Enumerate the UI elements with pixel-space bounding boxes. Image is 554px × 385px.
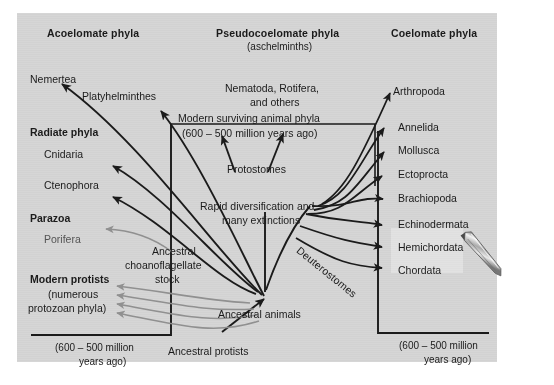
pseudocoelomate-list-line1: Nematoda, Rotifera, (225, 82, 319, 94)
pen-cursor[interactable] (455, 228, 525, 286)
header-acoelomate: Acoelomate phyla (47, 27, 139, 39)
modern-protists-line2: (numerous (48, 288, 98, 300)
header-pseudocoelomate-sub: (aschelminths) (247, 41, 312, 53)
arrow-to-annelida (318, 128, 384, 206)
header-pseudocoelomate: Pseudocoelomate phyla (216, 27, 339, 39)
modern-phyla-box-line1: Modern surviving animal phyla (178, 112, 320, 124)
choanoflagellate-line1: Ancestral (152, 245, 196, 257)
phylum-mollusca: Mollusca (398, 144, 439, 156)
group-modern-protists: Modern protists (30, 273, 109, 285)
phylum-ectoprocta: Ectoprocta (398, 168, 448, 180)
modern-protists-line3: protozoan phyla) (28, 302, 106, 314)
phylum-brachiopoda: Brachiopoda (398, 192, 457, 204)
phylum-ctenophora: Ctenophora (44, 179, 99, 191)
phylum-cnidaria: Cnidaria (44, 148, 83, 160)
event-line2: many extinctions (222, 214, 300, 226)
label-protostomes: Protostomes (227, 163, 286, 175)
event-line1: Rapid diversification and (200, 200, 314, 212)
label-ancestral-protists: Ancestral protists (168, 345, 249, 357)
left-timescale-line1: (600 – 500 million (55, 342, 134, 354)
phylum-annelida: Annelida (398, 121, 439, 133)
arrow-protist-arc-1 (117, 286, 250, 303)
label-ancestral-animals: Ancestral animals (218, 308, 301, 320)
group-parazoa: Parazoa (30, 212, 70, 224)
phylum-porifera: Porifera (44, 233, 81, 245)
choanoflagellate-line3: stock (155, 273, 180, 285)
right-timescale-line1: (600 – 500 million (399, 340, 478, 352)
figure-canvas: Acoelomate phyla Pseudocoelomate phyla (… (0, 0, 554, 385)
diagram-artwork (0, 0, 554, 385)
right-timescale-line2: years ago) (424, 354, 471, 366)
arrow-to-cnidaria (113, 166, 258, 292)
arrow-to-hemichordata (300, 226, 382, 247)
phylum-platyhelminthes: Platyhelminthes (82, 90, 156, 102)
left-timescale-line2: years ago) (79, 356, 126, 368)
arrow-to-echinodermata (306, 214, 382, 225)
header-coelomate: Coelomate phyla (391, 27, 477, 39)
pseudocoelomate-list-line2: and others (250, 96, 300, 108)
phylum-arthropoda: Arthropoda (393, 85, 445, 97)
phylum-nemertea: Nemertea (30, 73, 76, 85)
group-radiate-phyla: Radiate phyla (30, 126, 98, 138)
phylum-hemichordata: Hemichordata (398, 241, 463, 253)
modern-phyla-box-line2: (600 – 500 million years ago) (182, 127, 317, 139)
choanoflagellate-line2: choanoflagellate (125, 259, 201, 271)
phylum-chordata: Chordata (398, 264, 441, 276)
